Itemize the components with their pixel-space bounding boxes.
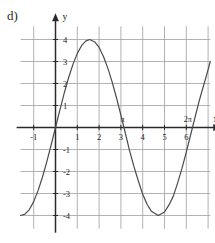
x-axis-arrowhead [213, 124, 215, 131]
x-axis-label: x [213, 114, 215, 124]
x-tick-label-5: 5 [162, 132, 166, 142]
y-axis-arrowhead [52, 13, 59, 21]
x-tick-label-1: 1 [75, 132, 79, 142]
y-axis-label: y [63, 12, 68, 22]
y-tick-label--1: -1 [63, 145, 70, 155]
y-tick-label--4: -4 [63, 211, 71, 221]
x-tick-label-3: 3 [119, 132, 123, 142]
x-tick-label-2: 2 [97, 132, 101, 142]
y-tick-label--2: -2 [63, 167, 70, 177]
graph-figure: d) -1123456 4321-1-2-3-4 π2π y x [0, 0, 215, 243]
x-tick-label-6: 6 [184, 132, 188, 142]
axis-annotations: π2π [120, 115, 191, 124]
plot-canvas: -1123456 4321-1-2-3-4 π2π y x [0, 0, 215, 243]
y-tick-label-3: 3 [63, 57, 67, 67]
x-tick-label--1: -1 [30, 132, 37, 142]
annotation-two-pi: 2π [184, 115, 192, 124]
x-tick-label-4: 4 [141, 132, 146, 142]
y-tick-label-1: 1 [63, 101, 67, 111]
y-tick-label--3: -3 [63, 189, 70, 199]
